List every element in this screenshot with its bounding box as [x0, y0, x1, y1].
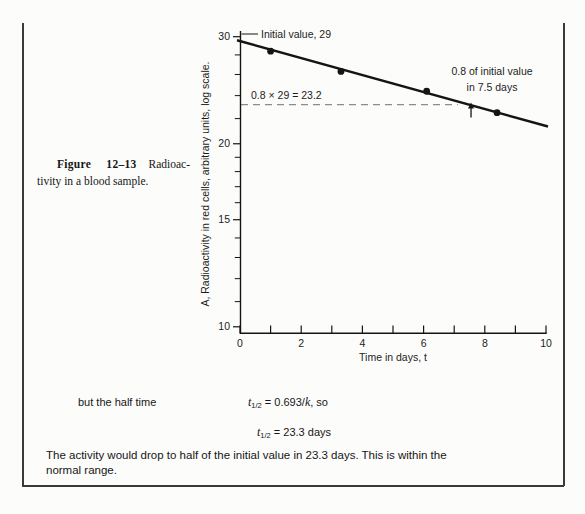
eq2-subscript: 1/2 [260, 431, 270, 440]
figure-caption-line2: tivity in a blood sample. [37, 175, 148, 187]
textbook-page: 12–9 EXPONENTIAL RELATIONS 401 Figure 12… [0, 0, 585, 514]
data-point [338, 68, 345, 75]
figure-caption-label: Figure 12–13 [57, 158, 137, 170]
annotation-drop-line2: in 7.5 days [467, 81, 518, 93]
running-head-text: 12–9 EXPONENTIAL RELATIONS [185, 0, 382, 2]
x-tick-label: 10 [540, 337, 552, 349]
radioactivity-chart: 302015100246810Time in days, tA, Radioac… [190, 18, 575, 370]
equation-half-time-value: t1/2 = 23.3 days [257, 425, 331, 440]
annotation-initial-value: Initial value, 29 [261, 28, 331, 40]
annotation-drop-line1: 0.8 of initial value [451, 65, 532, 77]
figure-caption-line1: Radioac- [137, 158, 190, 170]
annotation-calc: 0.8 × 29 = 23.2 [251, 89, 322, 101]
figure-caption: Figure 12–13 Radioac- tivity in a blood … [37, 156, 190, 189]
y-tick-label: 30 [218, 30, 230, 42]
data-point [267, 48, 274, 55]
conclusion-paragraph: The activity would drop to half of the i… [46, 448, 482, 478]
running-head-clipped: 12–9 EXPONENTIAL RELATIONS 401 [0, 0, 585, 5]
data-point [423, 88, 430, 95]
x-tick-label: 4 [359, 337, 365, 349]
x-tick-label: 6 [421, 337, 427, 349]
body-intro-text: but the half time [78, 396, 156, 408]
y-tick-label: 20 [218, 137, 230, 149]
page-number: 401 [553, 0, 573, 2]
eq2-rest: = 23.3 days [271, 426, 331, 438]
y-tick-label: 15 [218, 213, 230, 225]
data-point [494, 109, 501, 116]
x-tick-label: 0 [237, 337, 243, 349]
eq1-subscript: 1/2 [251, 401, 261, 410]
equation-half-time-formula: t1/2 = 0.693/k, so [248, 395, 328, 410]
figure-plot: 302015100246810Time in days, tA, Radioac… [190, 18, 575, 370]
y-axis-title: A, Radioactivity in red cells, arbitrary… [199, 61, 211, 306]
eq1-mid: = 0.693/ [262, 396, 305, 408]
x-axis-title: Time in days, t [359, 351, 427, 363]
eq1-tail: , so [310, 396, 328, 408]
page-border-left [22, 23, 24, 486]
x-tick-label: 8 [482, 337, 488, 349]
page-border-bottom [22, 485, 564, 487]
x-tick-label: 2 [298, 337, 304, 349]
y-tick-label: 10 [218, 320, 230, 332]
